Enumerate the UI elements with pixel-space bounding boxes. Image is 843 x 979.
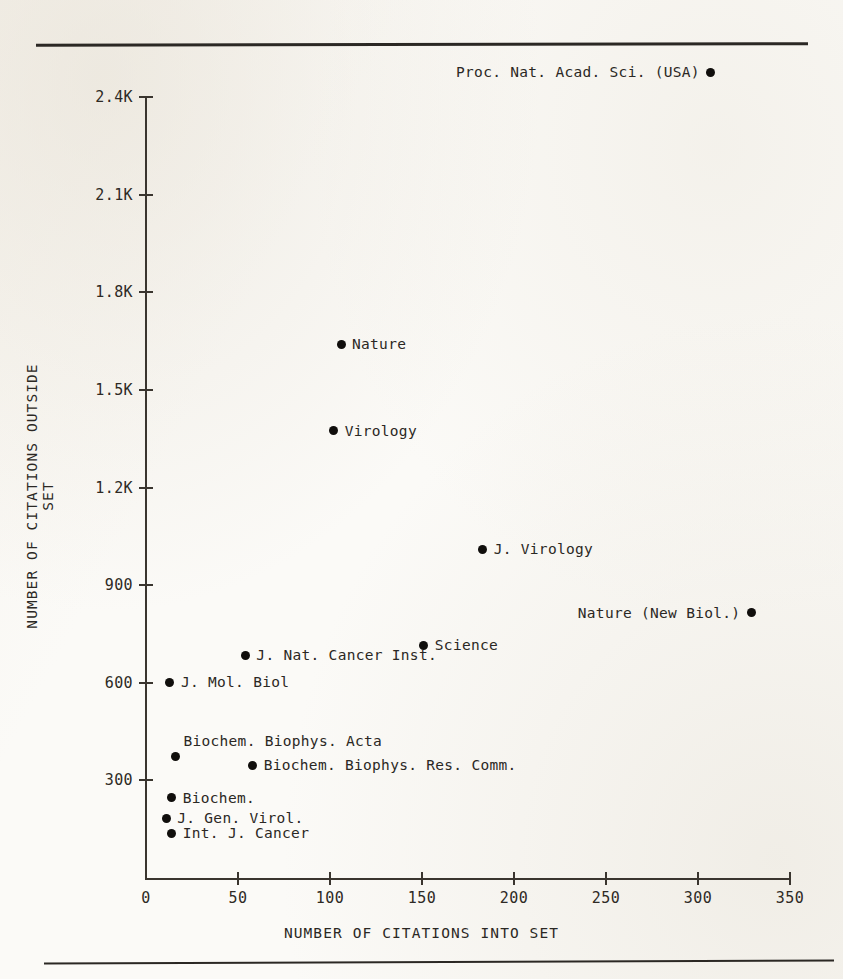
data-point-marker [248, 761, 257, 770]
data-point-marker [171, 752, 180, 761]
x-axis-tick [329, 872, 331, 885]
data-point-marker [167, 793, 176, 802]
x-axis-tick-label: 150 [392, 889, 452, 907]
x-axis-tick [237, 872, 239, 885]
y-axis-tick-label: 1.8K [55, 283, 133, 301]
y-axis-tick [139, 389, 153, 391]
data-point-label: Science [435, 638, 498, 653]
data-point-label: Proc. Nat. Acad. Sci. (USA) [456, 65, 700, 80]
x-axis-tick [789, 872, 791, 885]
x-axis-tick-label: 100 [300, 889, 360, 907]
y-axis-tick-label: 900 [55, 576, 133, 594]
data-point-label: Nature (New Biol.) [578, 606, 741, 621]
x-axis-line [145, 878, 791, 880]
data-point-label: Nature [352, 337, 406, 352]
y-axis-tick-label-text: 600 [63, 674, 133, 692]
y-axis-tick-label: 2.1K [55, 186, 133, 204]
x-axis-tick-label: 250 [576, 889, 636, 907]
y-axis-tick [139, 584, 153, 586]
data-point-label: Biochem. Biophys. Res. Comm. [264, 758, 517, 773]
data-point-marker [167, 829, 176, 838]
data-point-label: Int. J. Cancer [183, 826, 309, 841]
data-point-marker [241, 651, 250, 660]
y-axis-tick [139, 96, 153, 98]
y-axis-tick-label-text: 2.4K [63, 88, 133, 106]
y-axis-tick [139, 779, 153, 781]
y-axis-tick-label-text: 1.5K [63, 381, 133, 399]
data-point-marker [747, 608, 756, 617]
y-axis-title: NUMBER OF CITATIONS OUTSIDE SET [24, 346, 56, 646]
data-point-label: Virology [345, 423, 417, 438]
x-axis-tick-label: 300 [668, 889, 728, 907]
scatter-plot: 3006009001.2K1.5K1.8K2.1K2.4K 0501001502… [0, 0, 843, 979]
y-axis-tick [139, 291, 153, 293]
y-axis-tick-label: 600 [55, 674, 133, 692]
x-axis-tick [605, 872, 607, 885]
data-point-marker [165, 678, 174, 687]
data-point-label: J. Nat. Cancer Inst. [256, 648, 437, 663]
data-point-marker [329, 426, 338, 435]
y-axis-tick-label: 2.4K [55, 88, 133, 106]
x-axis-tick [421, 872, 423, 885]
y-axis-tick [139, 194, 153, 196]
data-point-label: J. Virology [494, 542, 593, 557]
figure-page: 3006009001.2K1.5K1.8K2.1K2.4K 0501001502… [0, 0, 843, 979]
x-axis-tick-label: 0 [116, 889, 176, 907]
data-point-label: Biochem. Biophys. Acta [183, 733, 382, 748]
data-point-label: J. Mol. Biol [181, 675, 289, 690]
data-point-label: J. Gen. Virol. [177, 811, 303, 826]
data-point-marker [706, 68, 715, 77]
y-axis-tick-label-text: 1.8K [63, 283, 133, 301]
y-axis-tick [139, 682, 153, 684]
x-axis-tick-label: 200 [484, 889, 544, 907]
data-point-marker [162, 814, 171, 823]
data-point-marker [337, 340, 346, 349]
data-point-marker [478, 545, 487, 554]
y-axis-tick-label: 1.2K [55, 479, 133, 497]
y-axis-tick-label: 1.5K [55, 381, 133, 399]
x-axis-tick [697, 872, 699, 885]
x-axis-title: NUMBER OF CITATIONS INTO SET [0, 925, 843, 941]
y-axis-tick-label-text: 300 [63, 771, 133, 789]
x-axis-tick-label: 50 [208, 889, 268, 907]
data-point-label: Biochem. [183, 791, 255, 806]
y-axis-tick [139, 487, 153, 489]
y-axis-tick-label: 300 [55, 771, 133, 789]
y-axis-tick-label-text: 2.1K [63, 186, 133, 204]
x-axis-tick [513, 872, 515, 885]
y-axis-tick-label-text: 900 [63, 576, 133, 594]
y-axis-tick-label-text: 1.2K [63, 479, 133, 497]
x-axis-tick-label: 350 [760, 889, 820, 907]
